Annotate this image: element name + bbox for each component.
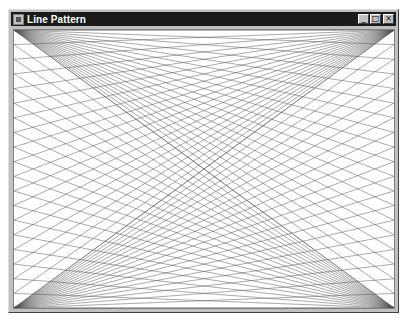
close-button[interactable]: × (383, 14, 394, 24)
app-icon[interactable] (13, 14, 24, 25)
minimize-button[interactable]: _ (358, 14, 369, 24)
window-controls: _ □ × (357, 14, 394, 24)
maximize-button[interactable]: □ (370, 14, 381, 24)
window-title: Line Pattern (27, 14, 86, 25)
title-bar[interactable]: Line Pattern _ □ × (11, 12, 396, 26)
application-window: Line Pattern _ □ × (8, 9, 399, 313)
line-pattern-drawing (14, 30, 394, 308)
line-pattern-canvas (13, 29, 395, 309)
